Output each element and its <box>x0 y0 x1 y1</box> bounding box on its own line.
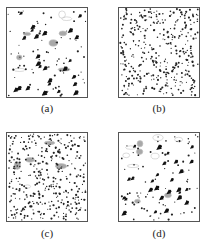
panel-c-plot <box>6 132 88 222</box>
panel-d-plot <box>118 132 200 222</box>
panel-b-caption: (b) <box>139 102 179 114</box>
panel-c-caption: (c) <box>27 227 67 239</box>
panel-b-plot <box>118 7 200 98</box>
panel-d-caption: (d) <box>139 227 179 239</box>
panel-a-plot <box>6 7 88 98</box>
panel-a-caption: (a) <box>27 102 67 114</box>
